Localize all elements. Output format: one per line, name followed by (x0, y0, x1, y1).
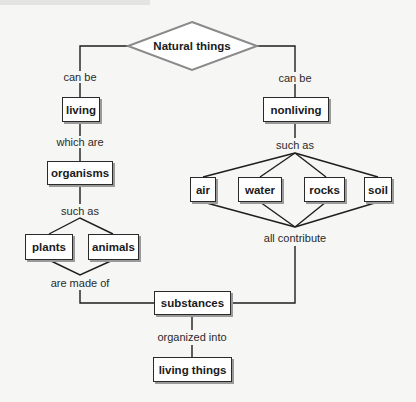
node-substances: substances (154, 291, 231, 315)
link-label-all-contribute: all contribute (263, 232, 327, 244)
node-water: water (238, 177, 282, 202)
node-living: living (62, 97, 100, 122)
node-air: air (190, 177, 216, 202)
root-node-label: Natural things (153, 40, 230, 52)
node-animals: animals (88, 234, 139, 260)
link-label-can-be-left: can be (62, 71, 97, 83)
node-rocks: rocks (304, 177, 345, 202)
node-soil: soil (364, 177, 392, 202)
node-organisms: organisms (47, 161, 113, 185)
link-label-can-be-right: can be (277, 72, 312, 84)
link-label-organized-into: organized into (156, 331, 227, 343)
link-label-are-made-of: are made of (50, 277, 111, 289)
node-plants: plants (25, 234, 73, 260)
link-label-such-as-left: such as (60, 205, 100, 217)
link-label-such-as-right: such as (275, 139, 315, 151)
link-label-which-are: which are (55, 136, 104, 148)
node-nonliving: nonliving (263, 97, 329, 122)
node-living-things: living things (153, 357, 232, 382)
